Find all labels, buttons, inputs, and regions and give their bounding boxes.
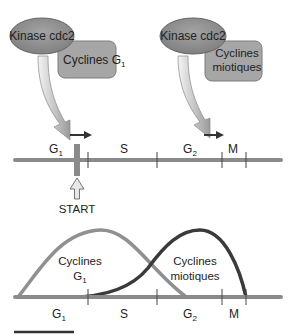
phase-label-g1: G1 <box>49 142 63 158</box>
phase-label-m: M <box>228 142 238 156</box>
kinase-label: Kinase cdc2 <box>9 29 75 43</box>
phase-label-m: M <box>229 307 239 321</box>
cyclin-mitotic-label-line1: Cyclines <box>215 47 259 59</box>
timeline-top: G1 S G2 M START <box>15 142 281 215</box>
phase-label-g2: G2 <box>183 307 197 323</box>
g1-curve-label-line1: Cyclines <box>58 255 102 267</box>
complex-g1: Kinase cdc2 Cyclines G1 <box>9 18 126 140</box>
mitotic-curve-label-line1: Cyclines <box>173 255 217 267</box>
kinase-label: Kinase cdc2 <box>160 29 226 43</box>
phase-label-s: S <box>120 142 128 156</box>
mitotic-curve-label-line2: miotiques <box>170 270 219 282</box>
phase-label-g2: G2 <box>183 142 197 158</box>
cell-cycle-diagram: Kinase cdc2 Cyclines G1 Kinase cdc2 Cycl… <box>0 0 298 336</box>
g1-curve-label-line2: G1 <box>73 270 87 285</box>
phase-label-g1: G1 <box>52 307 66 323</box>
start-checkpoint-bar <box>74 144 80 176</box>
start-arrow-icon <box>70 178 84 199</box>
progress-arrow-g1-icon <box>70 131 92 139</box>
cyclin-curves: Cyclines G1 Cyclines miotiques G1 S G2 M <box>14 230 281 332</box>
complex-mitotic: Kinase cdc2 Cyclines miotiques <box>160 18 262 138</box>
cyclin-mitotic-label-line2: miotiques <box>212 61 261 73</box>
cyclin-g1-label: Cyclines G1 <box>63 53 126 69</box>
start-label: START <box>59 203 96 215</box>
phase-label-s: S <box>120 307 128 321</box>
